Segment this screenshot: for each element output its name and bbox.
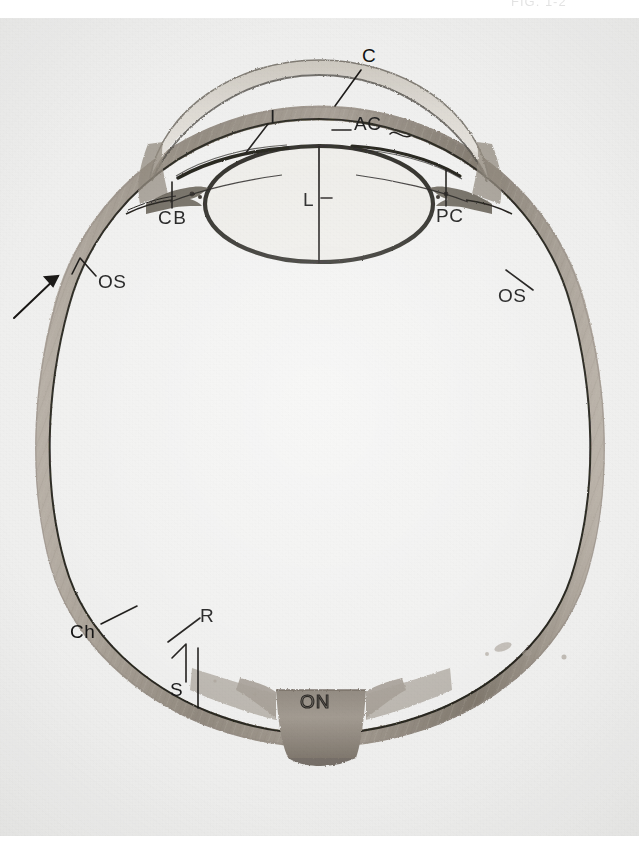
- label-cornea: C: [362, 46, 376, 65]
- photomicrograph: C I AC CB L PC OS OS Ch R S ON: [0, 18, 639, 836]
- label-anterior-chamber: AC: [354, 114, 381, 133]
- label-retina: R: [200, 606, 214, 625]
- label-ora-serrata-left: OS: [98, 272, 126, 291]
- cut-off-caption-sliver: FIG. 1-2: [511, 0, 629, 6]
- ora-serrata-arrow: [14, 276, 58, 318]
- label-ora-serrata-right: OS: [498, 286, 526, 305]
- label-posterior-chamber: PC: [436, 206, 463, 225]
- figure-page: FIG. 1-2: [0, 0, 639, 863]
- eye-cross-section-drawing: [0, 18, 639, 836]
- label-iris: I: [270, 107, 276, 126]
- label-optic-nerve: ON: [300, 692, 331, 711]
- cut-off-caption-text: FIG. 1-2: [511, 0, 629, 6]
- label-lens: L: [303, 190, 314, 209]
- label-sclera: S: [170, 680, 183, 699]
- label-choroid: Ch: [70, 622, 95, 641]
- label-ciliary-body: CB: [158, 208, 187, 227]
